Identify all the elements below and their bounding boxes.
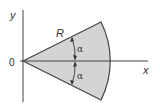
y-axis-label: y (9, 9, 17, 21)
sector-diagram: y x 0 R α α (0, 0, 160, 105)
angle-label-upper: α (77, 44, 83, 54)
x-axis-label: x (142, 64, 149, 76)
radius-label: R (56, 27, 64, 39)
angle-label-lower: α (77, 71, 83, 81)
origin-label: 0 (9, 57, 15, 68)
